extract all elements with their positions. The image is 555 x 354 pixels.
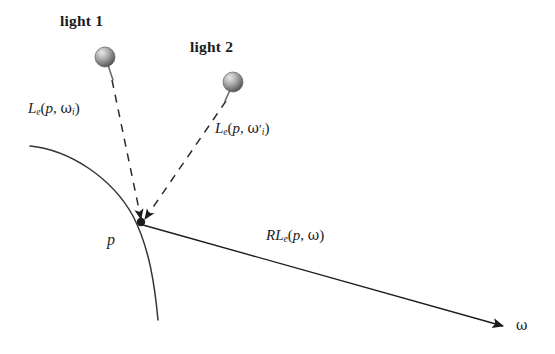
light1-label: light 1 — [60, 13, 103, 29]
intersection-point-dot — [137, 218, 145, 226]
omega-direction-label: ω — [516, 318, 527, 333]
diagram-canvas — [0, 0, 555, 354]
surface-curve — [30, 146, 158, 320]
light1-stem — [108, 65, 113, 80]
light-transport-diagram: light 1 light 2 Le(p, ωi) Le(p, ω′i) RLe… — [0, 0, 555, 354]
rle-base: RL — [266, 227, 284, 243]
incident-ray-light1 — [112, 80, 141, 219]
incident-radiance-1-label: Le(p, ωi) — [28, 101, 80, 118]
point-p-label: p — [107, 232, 115, 248]
le2-close-paren: ) — [264, 120, 269, 136]
rle-comma: , — [300, 227, 308, 243]
le1-omega: ω — [61, 100, 72, 116]
incident-radiance-2-label: Le(p, ω′i) — [215, 121, 269, 138]
incident-ray-light2 — [145, 101, 226, 219]
light2-label: light 2 — [190, 39, 233, 55]
omega-glyph: ω — [516, 317, 527, 333]
light2-sphere — [223, 72, 243, 92]
le2-point: p — [233, 120, 241, 136]
rle-close-paren: ) — [319, 227, 324, 243]
le1-point: p — [46, 100, 54, 116]
le2-omega: ω — [248, 120, 259, 136]
light1-sphere — [95, 47, 115, 67]
le1-comma: , — [53, 100, 61, 116]
rle-omega: ω — [308, 227, 319, 243]
reflected-radiance-label: RLe(p, ω) — [266, 228, 324, 245]
light2-stem — [225, 90, 230, 101]
le1-close-paren: ) — [75, 100, 80, 116]
le2-comma: , — [240, 120, 248, 136]
